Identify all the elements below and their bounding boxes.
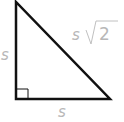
right-angle-marker	[16, 89, 28, 99]
hypotenuse-coef-label: s	[72, 28, 80, 43]
triangle	[16, 2, 110, 99]
left-leg-label: s	[1, 48, 9, 63]
hypotenuse-radicand-label: 2	[99, 26, 110, 43]
bottom-leg-label: s	[58, 105, 66, 120]
